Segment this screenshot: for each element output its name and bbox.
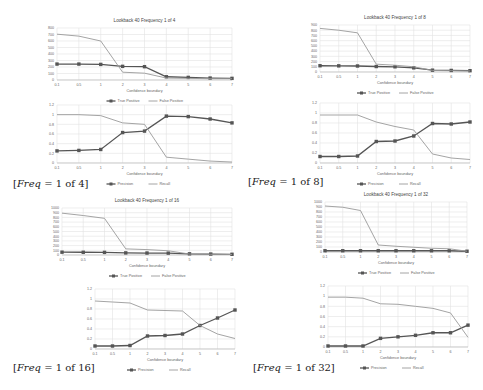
chart-freq16-counts: Lookback 40 Frequency 1 of 1601002003004… (30, 198, 245, 288)
data-marker (230, 121, 233, 124)
y-tick-label: 200 (311, 60, 317, 64)
x-tick-label: 7 (466, 255, 468, 259)
data-marker (216, 316, 219, 319)
data-marker (143, 129, 146, 132)
data-marker (121, 65, 124, 68)
x-axis-title: Confidence boundary (126, 172, 162, 176)
data-marker (318, 155, 321, 158)
chart-title: Lookback 40 Frequency 1 of 8 (364, 15, 426, 20)
legend: PrecisionRecall (357, 182, 421, 186)
y-tick-label: 500 (48, 46, 54, 50)
legend-marker (130, 369, 133, 372)
y-tick-label: 1 (323, 294, 325, 298)
x-tick-label: 5 (187, 166, 189, 170)
y-tick-label: 0.4 (320, 325, 325, 329)
y-tick-label: 1.2 (49, 103, 54, 107)
legend: True PositiveFalse Positive (109, 274, 186, 278)
x-tick-label: 5 (199, 352, 201, 356)
y-tick-label: 1 (52, 113, 54, 117)
y-tick-label: 100 (311, 65, 317, 69)
x-tick-label: 7 (231, 258, 233, 262)
x-tick-label: 6 (217, 352, 219, 356)
data-marker (337, 64, 340, 67)
data-marker (145, 251, 148, 254)
y-tick-label: 900 (53, 211, 59, 215)
data-marker (396, 335, 399, 338)
x-tick-label: 0.5 (110, 352, 115, 356)
y-tick-label: 800 (48, 26, 54, 30)
caption-freq-1-of-32: [Freq = 1 of 32] (253, 362, 335, 373)
data-marker (181, 332, 184, 335)
legend: PrecisionRecall (107, 182, 171, 186)
data-marker (77, 62, 80, 65)
x-tick-label: 2 (375, 75, 377, 79)
legend-label: False Positive (410, 91, 434, 95)
x-tick-label: 4 (165, 83, 167, 87)
x-tick-label: 1 (129, 352, 131, 356)
legend-label: True Positive (369, 271, 391, 275)
legend: True PositiveFalse Positive (357, 91, 434, 95)
data-marker (146, 334, 149, 337)
grid (62, 208, 232, 255)
data-marker (167, 251, 170, 254)
y-tick-label: 0 (57, 253, 59, 257)
x-tick-label: 1 (360, 255, 362, 259)
data-marker (82, 251, 85, 254)
y-tick-label: 200 (316, 240, 322, 244)
x-tick-label: 1 (100, 166, 102, 170)
grid (57, 105, 232, 163)
y-tick-label: 1.2 (320, 284, 325, 288)
y-tick-label: 1.2 (87, 287, 92, 291)
y-tick-label: 0.8 (49, 123, 54, 127)
data-marker (466, 323, 469, 326)
data-marker (361, 344, 364, 347)
y-tick-label: 0.6 (312, 131, 317, 135)
caption-variable: Freq (17, 362, 41, 373)
x-tick-label: 6 (450, 166, 452, 170)
x-tick-label: 3 (144, 166, 146, 170)
x-tick-label: 1 (357, 166, 359, 170)
y-tick-label: 1 (90, 297, 92, 301)
legend-label: Precision (368, 182, 384, 186)
x-tick-label: 0.5 (76, 83, 81, 87)
x-tick-label: 2 (125, 258, 127, 262)
chart-freq8-counts: Lookback 40 Frequency 1 of 8010020030040… (270, 6, 483, 98)
y-tick-label: 600 (48, 39, 54, 43)
legend-marker (363, 367, 366, 370)
y-tick-label: 700 (48, 33, 54, 37)
y-tick-label: 1.2 (312, 101, 317, 105)
x-tick-label: 0.1 (55, 166, 60, 170)
data-marker (326, 344, 329, 347)
x-tick-label: 7 (469, 166, 471, 170)
y-tick-label: 700 (316, 215, 322, 219)
legend-label: False Positive (411, 271, 435, 275)
chart-svg: Lookback 40 Frequency 1 of 8010020030040… (270, 6, 483, 98)
data-marker (111, 344, 114, 347)
y-tick-label: 0 (90, 347, 92, 351)
x-tick-label: 7 (469, 75, 471, 79)
legend-label: True Positive (368, 91, 390, 95)
data-marker (208, 117, 211, 120)
x-tick-label: 7 (467, 350, 469, 354)
legend-label: False Positive (162, 274, 186, 278)
data-marker (163, 334, 166, 337)
x-tick-label: 0.5 (340, 255, 345, 259)
y-tick-label: 500 (53, 230, 59, 234)
y-tick-label: 0.8 (87, 307, 92, 311)
data-marker (121, 131, 124, 134)
y-tick-label: 300 (316, 235, 322, 239)
x-tick-label: 6 (210, 258, 212, 262)
y-tick-label: 100 (53, 249, 59, 253)
chart-svg: 00.20.40.60.811.20.10.51234567Confidence… (270, 96, 483, 188)
x-tick-label: 5 (187, 83, 189, 87)
y-tick-label: 0 (52, 161, 54, 165)
data-marker (375, 65, 378, 68)
y-tick-label: 400 (311, 49, 317, 53)
y-tick-label: 300 (53, 239, 59, 243)
x-tick-label: 0.1 (55, 83, 60, 87)
x-tick-label: 3 (394, 166, 396, 170)
legend-label: Recall (413, 366, 424, 370)
data-marker (414, 334, 417, 337)
x-axis-title: Confidence boundary (147, 358, 183, 362)
data-marker (356, 64, 359, 67)
